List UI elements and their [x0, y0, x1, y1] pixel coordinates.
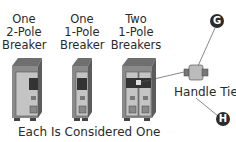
one-pole-breaker: [72, 58, 92, 121]
leader-line-h: [196, 98, 218, 116]
label-line: Breaker: [2, 39, 46, 52]
handle-tie-icon: [184, 65, 208, 80]
two-one-pole-breakers: [122, 58, 156, 121]
label-line: Breakers: [110, 39, 162, 52]
callout-h-badge: H: [216, 112, 230, 126]
label-line: Breaker: [60, 39, 104, 52]
callout-g-badge: G: [210, 14, 224, 28]
label-two-one-pole-breakers: Two 1-Pole Breakers: [110, 13, 162, 52]
caption: Each Is Considered One: [18, 125, 160, 139]
label-two-pole-breaker: One 2-Pole Breaker: [2, 13, 46, 52]
label-one-pole-breaker: One 1-Pole Breaker: [60, 13, 104, 52]
leader-line-g: [198, 28, 215, 66]
two-pole-breaker: [12, 58, 42, 121]
handle-tie-label: Handle Tie: [174, 85, 236, 99]
